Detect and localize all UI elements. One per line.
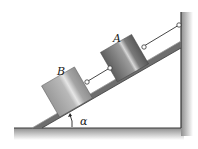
block-a-lower-ring-icon: [108, 66, 112, 70]
block-a-label: A: [113, 33, 121, 44]
rope-a-to-b: [88, 69, 108, 81]
block-b-label: B: [57, 66, 65, 77]
block-a: [100, 34, 148, 81]
wall: [181, 12, 193, 136]
block-a-upper-ring-icon: [142, 45, 146, 49]
wall-anchor-ring-icon: [177, 23, 181, 27]
angle-arrow-icon: [68, 113, 72, 127]
incline-diagram: A B α: [0, 0, 198, 149]
ground: [14, 128, 184, 140]
angle-label: α: [80, 116, 87, 127]
rope-wall-to-a: [144, 23, 181, 46]
block-b-ring-icon: [85, 80, 89, 84]
block-b: [42, 67, 93, 117]
